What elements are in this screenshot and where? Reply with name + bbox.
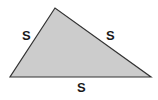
right-side-label: S <box>106 29 115 42</box>
bottom-side-label: S <box>77 81 86 94</box>
triangle-diagram: S S S <box>0 0 158 100</box>
left-side-label: S <box>22 29 31 42</box>
